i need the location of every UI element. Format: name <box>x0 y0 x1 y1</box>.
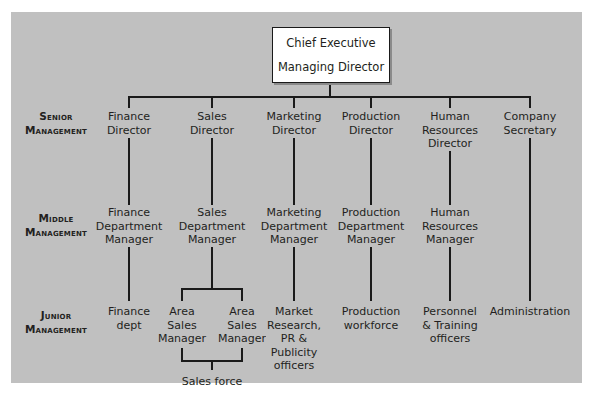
node-line: Area <box>217 305 267 319</box>
market-research-pr-publicity-node: Market Research, PR & Publicity officers <box>266 305 322 373</box>
node-line: officers <box>421 332 478 346</box>
finance-department-manager-node: Finance Department Manager <box>95 206 164 247</box>
production-department-manager-node: Production Department Manager <box>337 206 406 247</box>
node-line: Manager <box>337 233 406 247</box>
node-line: Manager <box>95 233 164 247</box>
node-line: Department <box>260 220 329 234</box>
sales-director-node: Sales Director <box>189 110 235 137</box>
node-line: Director <box>189 124 235 138</box>
node-line: Manager <box>421 233 479 247</box>
node-line: & Training <box>421 319 478 333</box>
chief-executive-label: Chief Executive <box>273 36 389 50</box>
finance-dept-node: Finance dept <box>107 305 151 332</box>
node-line: Director <box>421 137 479 151</box>
personnel-training-officers-node: Personnel & Training officers <box>421 305 478 346</box>
node-line: Resources <box>421 124 479 138</box>
level-line: Management <box>18 323 94 337</box>
company-secretary-node: Company Secretary <box>503 110 558 137</box>
node-line: Production <box>341 305 402 319</box>
node-line: officers <box>266 359 322 373</box>
node-line: Marketing <box>266 110 323 124</box>
node-line: Resources <box>421 220 479 234</box>
node-line: Manager <box>217 332 267 346</box>
node-line: workforce <box>341 319 402 333</box>
finance-director-node: Finance Director <box>106 110 152 137</box>
level-line: Senior <box>18 110 94 124</box>
node-line: Finance <box>107 305 151 319</box>
area-sales-manager-right-node: Area Sales Manager <box>217 305 267 346</box>
node-line: Manager <box>260 233 329 247</box>
level-line: Management <box>18 226 94 240</box>
node-line: Area <box>157 305 207 319</box>
node-line: Administration <box>489 305 572 319</box>
node-line: Sales <box>178 206 247 220</box>
node-line: Personnel <box>421 305 478 319</box>
node-line: PR & <box>266 332 322 346</box>
node-line: Finance <box>106 110 152 124</box>
node-line: Director <box>106 124 152 138</box>
sales-force-node: Sales force <box>182 375 242 389</box>
chief-executive-box: Chief Executive Managing Director <box>272 27 390 83</box>
node-line: Department <box>337 220 406 234</box>
level-line: Management <box>18 124 94 138</box>
node-line: Manager <box>157 332 207 346</box>
node-line: Department <box>95 220 164 234</box>
node-line: Company <box>503 110 558 124</box>
production-workforce-node: Production workforce <box>341 305 402 332</box>
node-line: Sales <box>217 319 267 333</box>
administration-node: Administration <box>489 305 572 319</box>
node-line: Publicity <box>266 346 322 360</box>
hr-director-node: Human Resources Director <box>421 110 479 151</box>
node-line: Manager <box>178 233 247 247</box>
node-line: Sales <box>189 110 235 124</box>
node-line: Production <box>341 110 402 124</box>
node-line: Production <box>337 206 406 220</box>
marketing-department-manager-node: Marketing Department Manager <box>260 206 329 247</box>
hr-manager-node: Human Resources Manager <box>421 206 479 247</box>
node-line: Finance <box>95 206 164 220</box>
area-sales-manager-left-node: Area Sales Manager <box>157 305 207 346</box>
node-line: Market <box>266 305 322 319</box>
level-senior-management: Senior Management <box>18 110 94 137</box>
node-line: Human <box>421 206 479 220</box>
marketing-director-node: Marketing Director <box>266 110 323 137</box>
node-line: Director <box>266 124 323 138</box>
level-line: Junior <box>18 309 94 323</box>
node-line: Research, <box>266 319 322 333</box>
level-junior-management: Junior Management <box>18 309 94 336</box>
node-line: dept <box>107 319 151 333</box>
node-line: Human <box>421 110 479 124</box>
node-line: Marketing <box>260 206 329 220</box>
sales-department-manager-node: Sales Department Manager <box>178 206 247 247</box>
node-line: Director <box>341 124 402 138</box>
node-line: Sales <box>157 319 207 333</box>
node-line: Secretary <box>503 124 558 138</box>
level-middle-management: Middle Management <box>18 212 94 239</box>
node-line: Department <box>178 220 247 234</box>
managing-director-label: Managing Director <box>273 60 389 74</box>
production-director-node: Production Director <box>341 110 402 137</box>
level-line: Middle <box>18 212 94 226</box>
